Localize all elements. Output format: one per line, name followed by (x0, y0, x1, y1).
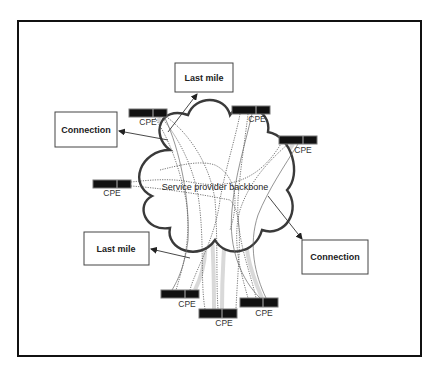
box-last-mile-bottom: Last mile (84, 232, 149, 265)
network-diagram: Service provider backbone Last mile Conn… (0, 0, 440, 373)
cpe-device-icon (161, 290, 199, 298)
svg-text:CPE: CPE (215, 318, 233, 328)
cpe-bottom-center: CPE (199, 309, 237, 328)
cpe-device-icon (232, 106, 270, 114)
svg-text:CPE: CPE (139, 117, 157, 127)
cpe-device-icon (199, 309, 237, 318)
cpe-device-icon (129, 109, 167, 117)
box-connection-left: Connection (55, 112, 117, 147)
cpe-device-icon (93, 180, 131, 188)
box-last-mile-top: Last mile (175, 63, 233, 92)
svg-text:CPE: CPE (178, 299, 196, 309)
box-label: Last mile (184, 73, 223, 83)
cpe-bottom-right: CPE (240, 298, 278, 318)
box-label: Last mile (96, 244, 135, 254)
cpe-bottom-left: CPE (161, 290, 199, 309)
box-connection-right: Connection (302, 240, 368, 274)
cpe-left: CPE (93, 180, 131, 198)
backbone-label: Service provider backbone (162, 182, 269, 192)
cpe-device-icon (279, 136, 317, 144)
svg-text:CPE: CPE (103, 188, 121, 198)
box-label: Connection (61, 125, 111, 135)
svg-text:CPE: CPE (255, 308, 273, 318)
cpe-device-icon (240, 298, 278, 307)
box-label: Connection (310, 252, 360, 262)
svg-text:CPE: CPE (294, 145, 312, 155)
svg-text:CPE: CPE (248, 114, 266, 124)
